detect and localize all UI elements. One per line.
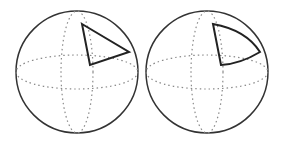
right-sphere-outline — [146, 11, 268, 133]
left-meridian — [61, 11, 93, 133]
right-sphere — [146, 11, 268, 133]
right-equator — [146, 55, 268, 89]
spherical-triangle — [213, 24, 260, 65]
right-meridian — [191, 11, 223, 133]
left-sphere-outline — [16, 11, 138, 133]
spheres-diagram — [0, 0, 284, 145]
left-equator — [16, 55, 138, 89]
left-sphere — [16, 11, 138, 133]
